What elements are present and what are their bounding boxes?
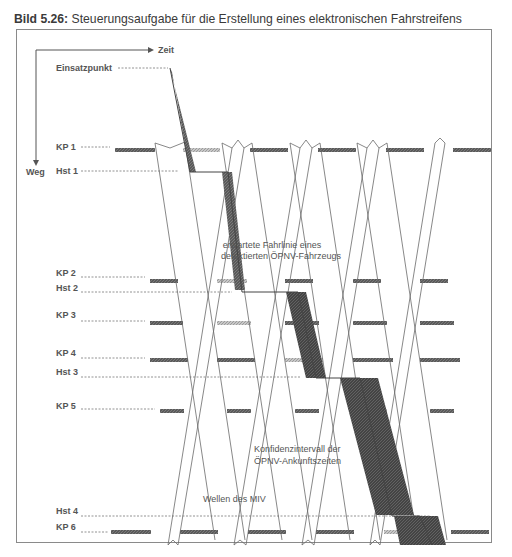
label-kp1: KP 1 bbox=[56, 142, 76, 152]
annotation-confidence-line2: ÖPNV-Ankunftszeiten bbox=[254, 456, 341, 466]
annotation-confidence-line1: Konfidenzintervall der bbox=[254, 444, 341, 454]
annotation-trajectory-line2: detektierten ÖPNV-Fahrzeugs bbox=[221, 251, 342, 261]
label-kp4: KP 4 bbox=[56, 348, 76, 358]
annotation-trajectory-line1: erwartete Fahrlinie eines bbox=[223, 240, 322, 250]
label-kp3: KP 3 bbox=[56, 310, 76, 320]
label-hst4: Hst 4 bbox=[56, 506, 78, 516]
label-einsatzpunkt: Einsatzpunkt bbox=[56, 63, 112, 73]
label-kp5: KP 5 bbox=[56, 401, 76, 411]
label-kp2: KP 2 bbox=[56, 268, 76, 278]
label-hst2: Hst 2 bbox=[56, 283, 78, 293]
label-hst1: Hst 1 bbox=[56, 166, 78, 176]
time-axis-label: Zeit bbox=[158, 45, 174, 55]
annotation-miv-waves: Wellen des MIV bbox=[203, 494, 266, 504]
label-hst3: Hst 3 bbox=[56, 367, 78, 377]
time-space-diagram: Zeit Weg Einsatzpunkt KP 1 Hst 1 KP 2 Hs… bbox=[0, 0, 512, 557]
distance-axis-label: Weg bbox=[26, 167, 45, 177]
confidence-interval bbox=[170, 68, 446, 545]
label-kp6: KP 6 bbox=[56, 522, 76, 532]
